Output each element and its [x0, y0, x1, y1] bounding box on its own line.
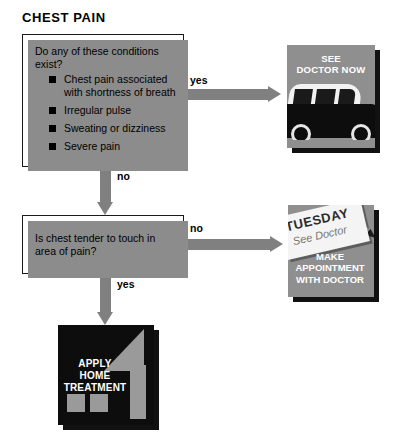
bullet-square-icon — [49, 125, 56, 132]
bullet-square-icon — [49, 107, 56, 114]
caption-line: HOME — [62, 370, 128, 382]
car-illustration: SEE DOCTOR NOW — [287, 45, 375, 148]
caption-line: MAKE — [288, 251, 372, 263]
chest-pain-triage-flowchart: CHEST PAIN Do any of these conditions ex… — [0, 0, 396, 444]
bullet-square-icon — [49, 76, 56, 83]
outcome-see-doctor-now: SEE DOCTOR NOW — [287, 45, 375, 148]
arrow-head — [97, 202, 113, 215]
arrow-symptoms-yes — [183, 89, 281, 100]
house-wall — [130, 365, 146, 419]
tenderness-question: Is chest tender to touch in area of pain… — [35, 232, 175, 258]
decision-box-symptoms: Do any of these conditions exist? Chest … — [22, 34, 184, 167]
arrow-shaft — [100, 272, 111, 312]
caption-line: WITH DOCTOR — [288, 274, 372, 286]
arrow-shaft — [183, 89, 268, 100]
calendar-illustration: TUESDAY See Doctor MAKE APPOINTMENT WITH… — [288, 205, 374, 297]
make-appointment-caption: MAKE APPOINTMENT WITH DOCTOR — [288, 251, 372, 286]
caption-line: SEE — [287, 53, 375, 64]
house-window — [66, 393, 86, 413]
arrow-label-tender-no: no — [190, 222, 203, 234]
car-window — [293, 89, 313, 104]
outcome-apply-home-treatment: APPLY HOME TREATMENT — [58, 325, 154, 425]
arrow-head — [268, 86, 281, 102]
symptom-label: Irregular pulse — [64, 104, 131, 116]
arrow-symptoms-no — [100, 164, 111, 215]
bullet-square-icon — [49, 143, 56, 150]
arrow-tender-yes — [100, 272, 111, 325]
symptoms-question: Do any of these conditions exist? — [35, 45, 175, 71]
outcome-make-appointment: TUESDAY See Doctor MAKE APPOINTMENT WITH… — [288, 205, 374, 297]
caption-line: DOCTOR NOW — [287, 64, 375, 75]
list-item: Sweating or dizziness — [49, 122, 177, 135]
car-window — [315, 89, 336, 104]
apply-home-treatment-caption: APPLY HOME TREATMENT — [62, 358, 128, 394]
list-item: Severe pain — [49, 140, 177, 153]
symptom-list: Chest pain associated with shortness of … — [49, 73, 177, 158]
page-title: CHEST PAIN — [22, 10, 106, 25]
symptom-label: Chest pain associated with shortness of … — [64, 73, 175, 98]
arrow-label-symptoms-yes: yes — [190, 74, 208, 86]
arrow-tender-no — [183, 239, 283, 250]
see-doctor-now-caption: SEE DOCTOR NOW — [287, 53, 375, 75]
car-window — [338, 89, 356, 104]
symptom-label: Severe pain — [64, 140, 120, 152]
arrow-label-tender-yes: yes — [117, 278, 135, 290]
caption-line: APPLY — [62, 358, 128, 370]
list-item: Irregular pulse — [49, 104, 177, 117]
arrow-shaft — [183, 239, 270, 250]
house-window — [89, 393, 109, 413]
arrow-label-symptoms-no: no — [117, 170, 130, 182]
list-item: Chest pain associated with shortness of … — [49, 73, 177, 99]
arrow-head — [270, 236, 283, 252]
decision-box-tenderness: Is chest tender to touch in area of pain… — [22, 215, 184, 274]
caption-line: APPOINTMENT — [288, 262, 372, 274]
symptom-label: Sweating or dizziness — [64, 122, 166, 134]
house-illustration: APPLY HOME TREATMENT — [58, 325, 154, 425]
arrow-head — [97, 312, 113, 325]
car-ground — [287, 140, 375, 148]
